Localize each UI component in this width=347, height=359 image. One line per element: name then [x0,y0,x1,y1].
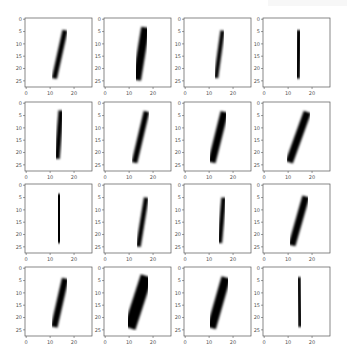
y-tick-label: 0 [257,100,260,106]
x-tick-label: 10 [126,174,132,180]
y-tick-label: 0 [178,16,181,22]
y-tick-label: 10 [95,290,101,296]
subplot-0-1: 051015202501020 [104,18,171,87]
x-tick-label: 20 [309,339,315,345]
y-tick-label: 25 [16,244,22,250]
y-tick-label: 25 [16,327,22,333]
x-tick-label: 20 [230,90,236,96]
axes-frame [263,267,330,336]
subplot-2-1: 051015202501020 [104,184,171,253]
x-tick-label: 0 [263,174,266,180]
y-tick-label: 10 [175,125,181,131]
y-tick-label: 15 [16,302,22,308]
y-tick-label: 0 [19,182,22,188]
y-tick-label: 5 [178,28,181,34]
y-tick-label: 5 [19,277,22,283]
y-tick-label: 5 [19,112,22,118]
subplot-3-0: 051015202501020 [25,267,92,336]
subplot-1-1: 051015202501020 [104,102,171,171]
y-tick-label: 5 [178,112,181,118]
y-tick-label: 0 [98,182,101,188]
y-tick-label: 20 [254,231,260,237]
y-tick-label: 25 [254,327,260,333]
digit-stroke [220,200,224,241]
subplot-2-3: 051015202501020 [263,184,330,253]
top-edge-bar [268,0,347,6]
y-tick-label: 25 [254,162,260,168]
subplot-1-2: 051015202501020 [184,102,251,171]
y-tick-label: 0 [178,265,181,271]
x-tick-label: 10 [206,339,212,345]
digit-stroke [55,33,65,76]
y-tick-label: 25 [175,327,181,333]
y-tick-label: 20 [175,231,181,237]
y-tick-label: 10 [16,290,22,296]
digit-stroke [291,116,307,159]
x-tick-label: 10 [206,90,212,96]
y-tick-label: 20 [254,314,260,320]
y-tick-label: 20 [95,231,101,237]
y-tick-label: 10 [175,207,181,213]
x-tick-label: 0 [104,174,107,180]
y-tick-label: 0 [98,100,101,106]
y-tick-label: 25 [254,78,260,84]
y-tick-label: 25 [95,244,101,250]
x-tick-label: 20 [71,339,77,345]
y-tick-label: 15 [16,219,22,225]
x-tick-label: 0 [25,174,28,180]
y-tick-label: 20 [254,149,260,155]
y-tick-label: 0 [257,16,260,22]
x-tick-label: 10 [206,256,212,262]
subplot-0-0: 051015202501020 [25,18,92,87]
x-tick-label: 10 [126,339,132,345]
digit-stroke [293,200,305,242]
x-tick-label: 10 [285,90,291,96]
x-tick-label: 0 [184,90,187,96]
y-tick-label: 25 [95,162,101,168]
x-tick-label: 20 [150,256,156,262]
x-tick-label: 0 [104,339,107,345]
x-tick-label: 20 [309,174,315,180]
x-tick-label: 10 [47,90,53,96]
x-tick-label: 20 [71,174,77,180]
x-tick-label: 20 [230,339,236,345]
x-tick-label: 10 [47,256,53,262]
x-tick-label: 0 [104,256,107,262]
y-tick-label: 15 [175,219,181,225]
y-tick-label: 5 [98,194,101,200]
y-tick-label: 15 [254,302,260,308]
y-tick-label: 0 [19,265,22,271]
digit-stroke [138,32,145,76]
x-tick-label: 20 [71,256,77,262]
x-tick-label: 10 [285,256,291,262]
subplot-2-2: 051015202501020 [184,184,251,253]
x-tick-label: 20 [150,90,156,96]
digit-stroke [298,33,299,76]
y-tick-label: 5 [98,277,101,283]
y-tick-label: 10 [95,41,101,47]
y-tick-label: 5 [19,194,22,200]
digit-stroke [213,116,224,159]
y-tick-label: 0 [98,16,101,22]
y-tick-label: 10 [95,207,101,213]
subplot-0-2: 051015202501020 [184,18,251,87]
y-tick-label: 15 [95,53,101,59]
y-tick-label: 0 [257,182,260,188]
subplot-3-3: 051015202501020 [263,267,330,336]
y-tick-label: 5 [178,194,181,200]
y-tick-label: 0 [178,182,181,188]
x-tick-label: 10 [285,339,291,345]
x-tick-label: 0 [25,339,28,345]
y-tick-label: 10 [254,41,260,47]
x-tick-label: 10 [206,174,212,180]
y-tick-label: 25 [254,244,260,250]
y-tick-label: 15 [95,137,101,143]
y-tick-label: 20 [175,149,181,155]
y-tick-label: 15 [16,137,22,143]
x-tick-label: 0 [25,90,28,96]
x-tick-label: 10 [47,174,53,180]
y-tick-label: 5 [257,194,260,200]
x-tick-label: 10 [126,256,132,262]
y-tick-label: 25 [16,162,22,168]
subplot-3-1: 051015202501020 [104,267,171,336]
